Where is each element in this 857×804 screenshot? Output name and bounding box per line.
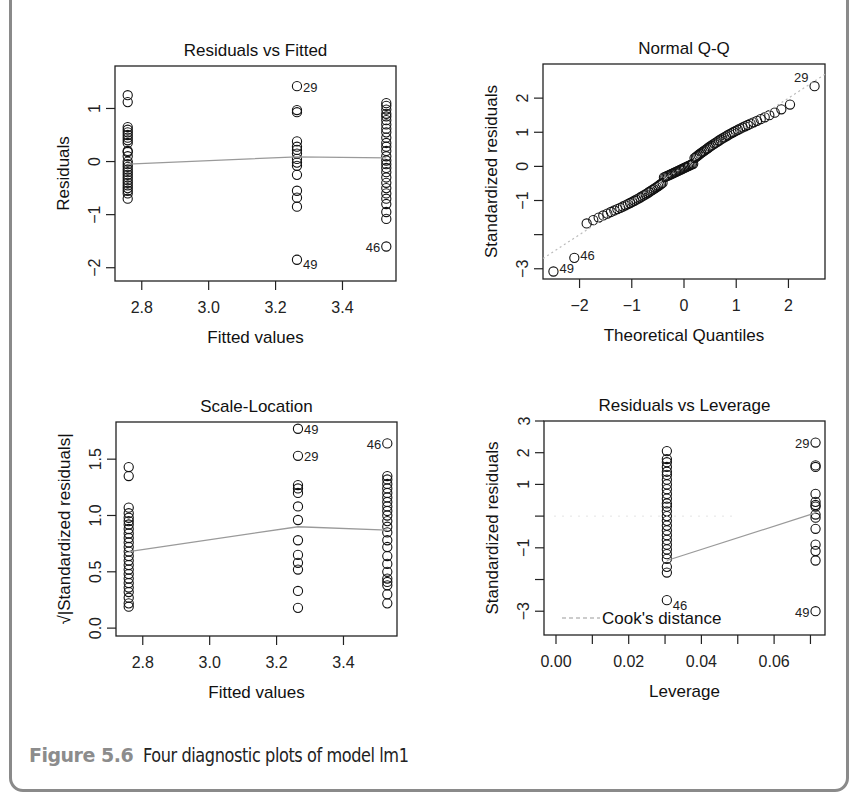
plot-normal_qq: Normal Q-Q−2−1012−3−1012Theoretical Quan…	[482, 39, 826, 345]
outlier-label: 29	[795, 436, 809, 451]
y-axis-label: Residuals	[54, 136, 73, 211]
y-tick-label: 1	[87, 104, 104, 113]
y-tick-label: 1.5	[88, 448, 105, 470]
y-tick-label: 1	[515, 128, 532, 137]
x-tick-label: 0.00	[540, 653, 571, 670]
outlier-label: 49	[795, 605, 809, 620]
y-tick-label: −1	[515, 191, 532, 209]
y-tick-label: 1.0	[88, 504, 105, 526]
x-tick-label: 3.2	[264, 299, 286, 316]
y-tick-label: 0.5	[88, 561, 105, 583]
outlier-label: 46	[580, 248, 594, 263]
y-tick-label: −3	[516, 602, 533, 620]
x-tick-label: 2.8	[131, 299, 153, 316]
legend-cooks-distance: Cook's distance	[602, 609, 721, 628]
x-tick-label: 3.2	[265, 654, 287, 671]
figure-caption: Figure 5.6Four diagnostic plots of model…	[29, 744, 456, 766]
x-tick-label: 0.06	[759, 653, 790, 670]
x-axis-label: Theoretical Quantiles	[604, 326, 765, 345]
outlier-label: 49	[304, 422, 318, 437]
x-tick-label: 2.8	[132, 654, 154, 671]
x-tick-label: 1	[732, 297, 741, 314]
y-axis-label: Standardized residuals	[482, 85, 501, 258]
data-points	[662, 438, 820, 616]
y-tick-label: 0	[515, 162, 532, 171]
figure-caption-text: Four diagnostic plots of model lm1	[143, 744, 409, 766]
x-tick-label: 0	[680, 297, 689, 314]
y-tick-label: 3	[516, 416, 533, 425]
x-tick-label: 3.0	[198, 299, 220, 316]
figure-label: Figure 5.6	[29, 744, 133, 766]
x-tick-label: 2	[784, 297, 793, 314]
data-points	[123, 82, 391, 265]
plot-resid_leverage: Residuals vs Leverage0.000.020.040.06−3−…	[483, 396, 826, 701]
x-axis-label: Fitted values	[208, 683, 304, 702]
y-tick-label: 0	[87, 157, 104, 166]
outlier-label: 29	[304, 449, 318, 464]
x-axis-label: Fitted values	[207, 328, 303, 347]
y-axis-label: √|Standardized residuals|	[55, 433, 74, 624]
outlier-label: 46	[366, 240, 380, 255]
x-tick-label: 0.04	[686, 653, 717, 670]
plot-title: Scale-Location	[200, 397, 312, 416]
outlier-label: 49	[559, 261, 573, 276]
y-axis-label: Standardized residuals	[483, 442, 502, 615]
outlier-label: 49	[303, 257, 317, 272]
y-tick-label: 0.0	[88, 617, 105, 639]
diagnostic-plots: Residuals vs Fitted2.83.03.23.4−2−101Fit…	[0, 0, 857, 804]
y-tick-label: −1	[516, 539, 533, 557]
x-tick-label: 0.02	[613, 653, 644, 670]
outlier-label: 46	[367, 437, 381, 452]
x-tick-label: −2	[570, 297, 588, 314]
plot-title: Residuals vs Leverage	[599, 396, 771, 415]
x-tick-label: −1	[623, 297, 641, 314]
plot-frame	[115, 66, 396, 281]
plot-resid_fitted: Residuals vs Fitted2.83.03.23.4−2−101Fit…	[54, 41, 397, 347]
y-tick-label: 2	[515, 94, 532, 103]
outlier-label: 29	[794, 70, 808, 85]
y-tick-label: −2	[87, 259, 104, 277]
x-axis-label: Leverage	[649, 682, 720, 701]
plot-title: Residuals vs Fitted	[184, 41, 328, 60]
outlier-label: 29	[303, 80, 317, 95]
plot-scale_location: Scale-Location2.83.03.23.40.00.51.01.5Fi…	[55, 397, 398, 702]
y-tick-label: −1	[87, 205, 104, 223]
x-tick-label: 3.0	[199, 654, 221, 671]
y-tick-label: 1	[516, 480, 533, 489]
x-tick-label: 3.4	[331, 299, 353, 316]
y-tick-label: 2	[516, 448, 533, 457]
data-points	[124, 424, 392, 612]
y-tick-label: −3	[515, 260, 532, 278]
x-tick-label: 3.4	[332, 654, 354, 671]
plot-title: Normal Q-Q	[638, 39, 730, 58]
